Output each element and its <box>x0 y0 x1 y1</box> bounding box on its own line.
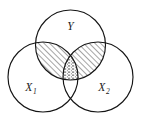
venn-diagram-figure: Y X1 X2 <box>0 0 141 125</box>
set-label-x2: X2 <box>97 81 110 96</box>
venn-diagram-canvas: Y X1 X2 <box>0 0 141 125</box>
set-label-x2-subscript: 2 <box>106 87 110 96</box>
set-label-x1-subscript: 1 <box>33 87 37 96</box>
set-label-y: Y <box>67 20 75 32</box>
set-label-x1: X1 <box>24 81 36 96</box>
set-label-y-text: Y <box>67 20 75 32</box>
